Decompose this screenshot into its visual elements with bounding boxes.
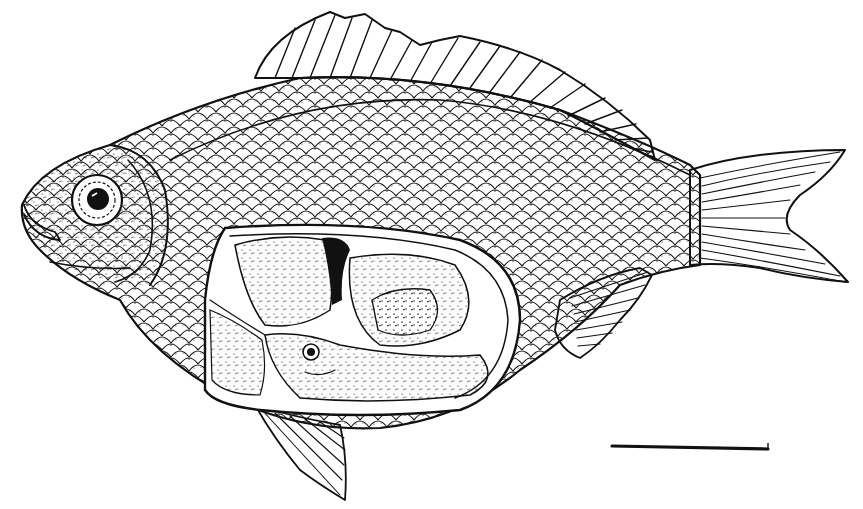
abdominal-cutaway <box>205 225 520 415</box>
fish-illustration: Fish illustration, lateral view with abd… <box>0 0 863 509</box>
scale-bar <box>612 443 768 450</box>
caudal-fin <box>690 150 848 282</box>
head <box>22 145 168 285</box>
eye-icon <box>72 175 122 225</box>
